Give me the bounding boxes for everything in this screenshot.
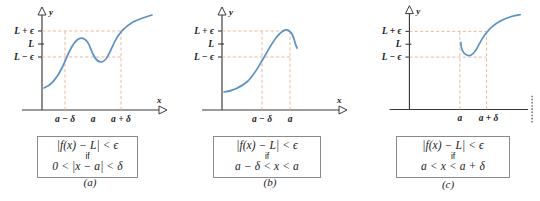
- x-tick-label-a-b: a: [288, 114, 293, 124]
- condition-line-3-a: 0 < |x − a| < δ: [44, 161, 131, 173]
- panel-label-a: (a): [0, 176, 180, 188]
- condition-line-1-c: |f(x) − L| < ϵ: [403, 140, 503, 152]
- x-tick-label-a-plus-delta-a: a + δ: [111, 114, 131, 124]
- plot-c: y L + ϵ L L − ϵ a a + δ: [358, 0, 538, 130]
- y-axis-label-a: y: [48, 7, 54, 17]
- panel-label-b: (b): [180, 176, 360, 188]
- x-tick-label-a-minus-delta-b: a − δ: [252, 114, 272, 124]
- y-tick-label-l-minus-eps-b: L − ϵ: [193, 52, 215, 62]
- curve-a: [44, 15, 152, 88]
- y-axis-arrowhead-b: [218, 7, 226, 15]
- x-axis-label-a: x: [156, 95, 162, 105]
- y-tick-label-l-minus-eps-a: L − ϵ: [13, 52, 35, 62]
- plot-a: y x L + ϵ L L − ϵ a − δ a a + δ: [0, 0, 180, 130]
- y-axis-arrowhead-a: [38, 7, 46, 15]
- panel-b: y x L + ϵ L L − ϵ a − δ a |f(x) − L| < ϵ…: [180, 0, 360, 201]
- condition-line-3-b: a − δ < x < a: [220, 161, 314, 173]
- y-tick-label-l-c: L: [395, 39, 402, 49]
- condition-line-1-b: |f(x) − L| < ϵ: [220, 140, 314, 152]
- panel-label-c: (c): [358, 178, 538, 190]
- y-tick-label-l-plus-eps-b: L + ϵ: [193, 26, 215, 36]
- y-tick-label-l-plus-eps-a: L + ϵ: [13, 26, 35, 36]
- x-axis-arrowhead-a: [159, 106, 167, 114]
- y-tick-label-l-minus-eps-c: L − ϵ: [381, 52, 403, 62]
- x-tick-label-a-c: a: [458, 113, 463, 123]
- figure-root: y x L + ϵ L L − ϵ a − δ a a + δ: [0, 0, 540, 201]
- x-axis-label-b: x: [336, 95, 342, 105]
- panel-c: y L + ϵ L L − ϵ a a + δ |f(x) − L| < ϵ i…: [358, 0, 538, 201]
- y-axis-arrowhead-c: [405, 6, 413, 14]
- x-tick-label-a-a: a: [91, 114, 96, 124]
- y-axis-label-c: y: [415, 6, 420, 16]
- y-tick-label-l-a: L: [27, 39, 34, 49]
- condition-box-c: |f(x) − L| < ϵ if a < x < a + δ: [396, 136, 510, 178]
- condition-box-b: |f(x) − L| < ϵ if a − δ < x < a: [213, 136, 321, 178]
- x-tick-label-a-plus-delta-c: a + δ: [479, 113, 499, 123]
- y-tick-label-l-b: L: [207, 39, 214, 49]
- condition-box-a: |f(x) − L| < ϵ if 0 < |x − a| < δ: [37, 136, 138, 178]
- x-axis-arrowhead-b: [339, 106, 347, 114]
- y-axis-label-b: y: [228, 7, 234, 17]
- condition-line-1-a: |f(x) − L| < ϵ: [44, 140, 131, 152]
- condition-line-3-c: a < x < a + δ: [403, 161, 503, 173]
- y-tick-label-l-plus-eps-c: L + ϵ: [381, 26, 402, 36]
- curve-c: [461, 15, 520, 56]
- panel-a: y x L + ϵ L L − ϵ a − δ a a + δ: [0, 0, 180, 201]
- x-tick-label-a-minus-delta-a: a − δ: [55, 114, 75, 124]
- plot-b: y x L + ϵ L L − ϵ a − δ a: [180, 0, 360, 130]
- curve-b: [224, 30, 297, 92]
